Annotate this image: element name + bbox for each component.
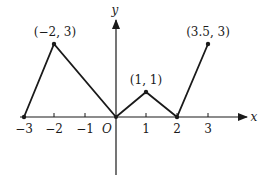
point-label: (−2, 3): [34, 25, 76, 39]
point-marker: [114, 115, 118, 119]
tick-label: −2: [45, 122, 63, 136]
y-axis-label: y: [111, 3, 119, 17]
point-marker: [206, 42, 210, 46]
point-marker: [22, 115, 26, 119]
tick-label: −1: [76, 122, 94, 136]
point-marker: [175, 115, 179, 119]
tick-label: −3: [15, 122, 33, 136]
point-label: (3.5, 3): [186, 25, 230, 39]
x-axis-label: x: [251, 110, 258, 124]
tick-label: 1: [142, 122, 150, 136]
graph-diagram: −3 −2 −1 O 1 2 3 x y (−2, 3) (1, 1) (3.5…: [0, 0, 267, 186]
point-marker: [52, 42, 56, 46]
origin-label: O: [102, 122, 112, 136]
graph-canvas: −3 −2 −1 O 1 2 3 x y (−2, 3) (1, 1) (3.5…: [0, 0, 267, 186]
point-marker: [144, 90, 148, 94]
tick-label: 2: [173, 122, 181, 136]
point-label: (1, 1): [130, 73, 162, 87]
tick-label: 3: [204, 122, 212, 136]
